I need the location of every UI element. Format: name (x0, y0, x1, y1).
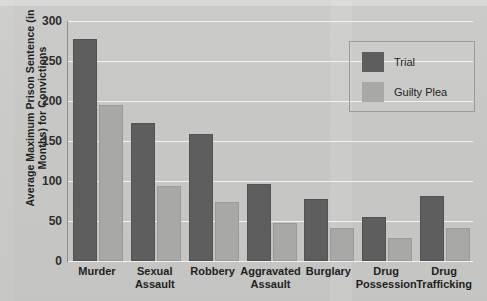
bar-chart-figure: Average Maximum Prison Sentence (in Mont… (0, 0, 487, 301)
bar-trial (189, 134, 213, 261)
y-axis-tick-labels: 300 250 200 150 100 50 0 (24, 0, 62, 301)
bar-trial (247, 184, 271, 261)
legend-label-trial: Trial (394, 56, 415, 68)
bar-group (304, 21, 354, 261)
bar-group (131, 21, 181, 261)
bar-guilty-plea (273, 223, 297, 261)
scan-artifact-band-left (0, 0, 14, 301)
bar-guilty-plea (388, 238, 412, 261)
bar-trial (73, 39, 97, 261)
y-tick-label: 50 (28, 216, 62, 226)
y-tick-label: 0 (28, 256, 62, 266)
bar-guilty-plea (157, 186, 181, 261)
bar-group (73, 21, 123, 261)
bar-trial (304, 199, 328, 261)
bar-guilty-plea (330, 228, 354, 261)
bar-group (247, 21, 297, 261)
bar-guilty-plea (446, 228, 470, 261)
bar-guilty-plea (99, 105, 123, 261)
x-axis-category-label-line: Drug (407, 265, 481, 278)
y-tick-label: 250 (28, 56, 62, 66)
bar-trial (362, 217, 386, 261)
legend-label-guilty-plea: Guilty Plea (394, 86, 447, 98)
y-tick-label: 100 (28, 176, 62, 186)
bar-trial (131, 123, 155, 261)
x-axis-category-label-line: Trafficking (407, 278, 481, 291)
legend: Trial Guilty Plea (349, 41, 475, 112)
x-axis-category-label-line: Assault (234, 278, 308, 291)
legend-swatch-trial-icon (362, 52, 384, 72)
x-axis-category-label-line: Assault (118, 278, 192, 291)
gridline (68, 261, 473, 262)
x-axis-category-label: DrugTrafficking (407, 265, 481, 290)
y-tick-label: 150 (28, 136, 62, 146)
bar-group (189, 21, 239, 261)
bar-guilty-plea (215, 202, 239, 261)
y-tick-label: 300 (28, 16, 62, 26)
legend-swatch-guilty-plea-icon (362, 82, 384, 102)
bar-trial (420, 196, 444, 261)
y-tick-label: 200 (28, 96, 62, 106)
scan-top-edge (0, 0, 487, 6)
